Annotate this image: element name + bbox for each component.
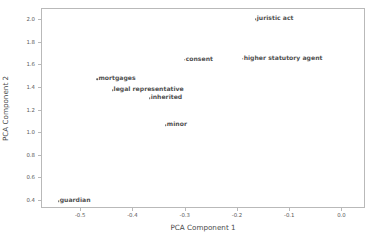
y-tick-mark	[38, 87, 41, 88]
point-label: juristic act	[257, 15, 294, 21]
y-tick-mark	[38, 177, 41, 178]
x-tick-label: -0.2	[232, 212, 243, 218]
x-tick-label: -0.5	[75, 212, 86, 218]
y-tick-label: 1.0	[26, 129, 35, 135]
data-points-layer: juristic acthigher statutory agentconsen…	[42, 9, 364, 207]
y-tick-label: 1.2	[26, 107, 35, 113]
y-tick-label: 0.4	[26, 197, 35, 203]
y-tick-label: 1.8	[26, 39, 35, 45]
x-axis-label: PCA Component 1	[41, 223, 365, 232]
point-label: inherited	[151, 94, 183, 100]
point-label: higher statutory agent	[244, 54, 323, 60]
x-tick-mark	[237, 208, 238, 211]
y-tick-mark	[38, 200, 41, 201]
y-tick-mark	[38, 64, 41, 65]
y-tick-mark	[38, 110, 41, 111]
y-tick-label: 1.4	[26, 84, 35, 90]
y-tick-mark	[38, 155, 41, 156]
x-tick-label: -0.3	[179, 212, 190, 218]
x-tick-label: -0.4	[127, 212, 138, 218]
point-label: legal representative	[114, 86, 184, 92]
x-tick-label: -0.1	[284, 212, 295, 218]
point-label: mortgages	[98, 75, 135, 81]
pca-scatter-figure: juristic acthigher statutory agentconsen…	[0, 0, 376, 241]
point-label: consent	[186, 55, 213, 61]
y-axis-label-text: PCA Component 2	[2, 75, 11, 140]
y-tick-label: 0.8	[26, 152, 35, 158]
x-tick-mark	[289, 208, 290, 211]
y-axis-label: PCA Component 2	[0, 8, 12, 208]
plot-frame: juristic acthigher statutory agentconsen…	[41, 8, 365, 208]
y-tick-mark	[38, 19, 41, 20]
y-tick-mark	[38, 132, 41, 133]
x-tick-mark	[341, 208, 342, 211]
y-tick-label: 1.6	[26, 61, 35, 67]
point-label: guardian	[60, 197, 91, 203]
x-tick-mark	[185, 208, 186, 211]
x-tick-label: 0.0	[337, 212, 346, 218]
x-tick-mark	[132, 208, 133, 211]
x-tick-mark	[80, 208, 81, 211]
y-tick-label: 2.0	[26, 16, 35, 22]
point-label: minor	[167, 121, 187, 127]
y-tick-label: 0.6	[26, 174, 35, 180]
y-tick-mark	[38, 42, 41, 43]
